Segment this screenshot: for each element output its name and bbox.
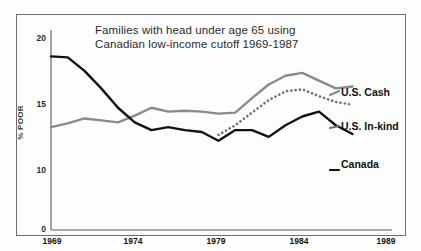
chart-figure: Families with head under age 65 using Ca…: [0, 0, 421, 251]
x-tick-label-1989: 1989: [366, 236, 406, 246]
chart-title-line-2: Canadian low-income cutoff 1969-1987: [95, 37, 345, 51]
x-tick-label-1979: 1979: [196, 236, 236, 246]
series-label-us-inkind: U.S. In-kind: [341, 120, 399, 132]
x-tick-label-1984: 1984: [279, 236, 319, 246]
series-label-canada: Canada: [341, 158, 379, 170]
y-tick-label-10: 10: [24, 165, 46, 175]
y-tick-label-20: 20: [24, 33, 46, 43]
y-tick-label-15: 15: [24, 99, 46, 109]
series-label-us-cash: U.S. Cash: [341, 86, 390, 98]
series-line-canada: [51, 56, 353, 140]
chart-title: Families with head under age 65 using Ca…: [95, 23, 345, 51]
chart-title-line-1: Families with head under age 65 using: [95, 23, 345, 37]
series-line-u-s-cash: [51, 73, 353, 127]
y-tick-label-0: 0: [24, 224, 46, 234]
x-tick-label-1974: 1974: [113, 236, 153, 246]
leader-us-cash: [330, 91, 339, 95]
leader-us-inkind: [330, 126, 339, 128]
x-tick-label-1969: 1969: [32, 236, 72, 246]
